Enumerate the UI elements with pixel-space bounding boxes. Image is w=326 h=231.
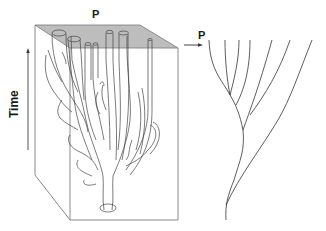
time-axis-label: Time (8, 90, 20, 118)
branching-tubes (45, 30, 159, 212)
box-outline (35, 25, 178, 220)
lineage-tree (209, 40, 312, 220)
time-arrow (26, 48, 29, 150)
diagram-stage: P P Time (0, 0, 326, 231)
top-plane (35, 25, 178, 48)
plane-label-tree: P (198, 30, 205, 41)
plane-label-top: P (92, 9, 99, 20)
diagram-svg (0, 0, 326, 231)
arrow-to-tree (184, 43, 203, 46)
